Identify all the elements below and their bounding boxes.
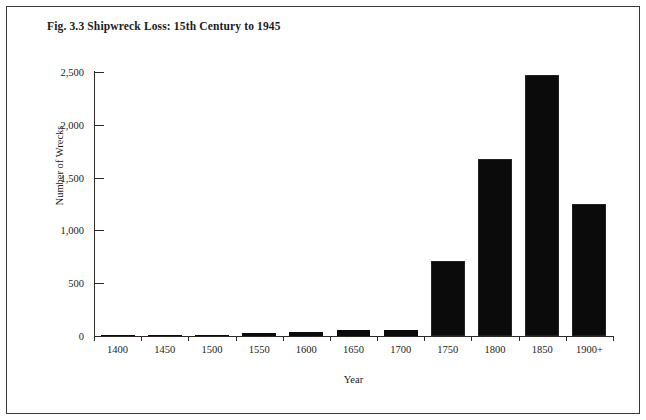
x-axis-title: Year [94, 374, 613, 385]
x-axis-tick-label: 1900+ [576, 344, 603, 355]
x-axis-tick-label: 1650 [343, 344, 364, 355]
figure-container: Fig. 3.3 Shipwreck Loss: 15th Century to… [0, 0, 646, 420]
y-axis-tick-label: 2,500 [60, 67, 84, 78]
x-axis-tick-label: 1500 [201, 344, 222, 355]
x-axis-tick-label: 1750 [437, 344, 458, 355]
y-axis-tick-label: 0 [79, 331, 84, 342]
y-axis-title: Number of Wrecks [54, 101, 65, 231]
x-axis-tick-label: 1850 [532, 344, 553, 355]
y-axis-tick-label: 500 [68, 278, 84, 289]
x-axis-tick-label: 1550 [249, 344, 270, 355]
x-axis-tick [613, 336, 614, 341]
x-axis-tick-label: 1450 [154, 344, 175, 355]
x-axis-tick-label: 1800 [485, 344, 506, 355]
x-axis-tick-label: 1400 [107, 344, 128, 355]
x-axis-tick-labels: 1400145015001550160016501700175018001850… [94, 0, 613, 420]
x-axis-tick-label: 1700 [390, 344, 411, 355]
x-axis-tick-label: 1600 [296, 344, 317, 355]
